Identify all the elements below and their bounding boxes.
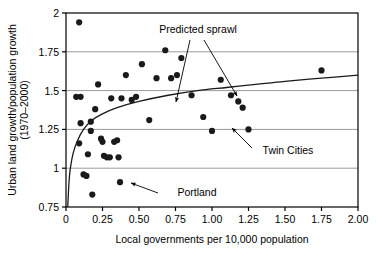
data-point xyxy=(78,94,84,100)
y-tick-label: 1 xyxy=(53,162,59,174)
data-point xyxy=(99,139,105,145)
scatter-plot: 00.250.500.751.001.251.501.752.00 0.7511… xyxy=(0,0,382,257)
data-point xyxy=(114,137,120,143)
data-point xyxy=(133,94,139,100)
y-tick-label: 2 xyxy=(53,7,59,19)
data-point xyxy=(123,72,129,78)
data-point xyxy=(146,117,152,123)
x-tick-label: 1.50 xyxy=(275,213,296,225)
x-tick-label: 2.00 xyxy=(348,213,369,225)
y-axis-title-line1: Urban land growth/population growth xyxy=(6,24,18,196)
annotation-label: Twin Cities xyxy=(263,144,314,156)
chart-figure: 00.250.500.751.001.251.501.752.00 0.7511… xyxy=(0,0,382,257)
data-point xyxy=(78,120,84,126)
data-point xyxy=(92,106,98,112)
data-point xyxy=(117,179,123,185)
x-axis-title: Local governments per 10,000 population xyxy=(115,233,308,245)
data-point xyxy=(209,128,215,134)
data-point xyxy=(83,173,89,179)
data-point xyxy=(245,126,251,132)
x-tick-label: 0.25 xyxy=(92,213,113,225)
data-point xyxy=(318,67,324,73)
y-axis-title-line2: (1970–2000) xyxy=(18,80,30,140)
annotation-label: Predicted sprawl xyxy=(159,23,237,35)
data-point xyxy=(162,47,168,53)
data-point xyxy=(76,19,82,25)
y-tick-label: 1.75 xyxy=(39,46,60,58)
y-tick-label: 1.5 xyxy=(44,85,59,97)
data-point xyxy=(228,92,234,98)
x-tick-label: 1.75 xyxy=(311,213,332,225)
data-point xyxy=(235,98,241,104)
data-point xyxy=(188,92,194,98)
data-point xyxy=(168,75,174,81)
data-point xyxy=(115,154,121,160)
x-tick-label: 0.50 xyxy=(129,213,150,225)
x-tick-label: 1.00 xyxy=(202,213,223,225)
y-tick-label: 0.75 xyxy=(39,201,60,213)
data-point xyxy=(174,72,180,78)
x-tick-label: 0.75 xyxy=(165,213,186,225)
data-point xyxy=(139,61,145,67)
data-point xyxy=(218,77,224,83)
y-tick-label: 1.25 xyxy=(39,123,60,135)
data-point xyxy=(107,154,113,160)
data-point xyxy=(200,114,206,120)
data-point xyxy=(178,55,184,61)
data-point xyxy=(108,95,114,101)
data-point xyxy=(85,151,91,157)
data-point xyxy=(118,95,124,101)
data-point xyxy=(240,105,246,111)
data-point xyxy=(153,75,159,81)
data-point xyxy=(76,140,82,146)
annotation-label: Portland xyxy=(177,186,216,198)
data-point xyxy=(88,128,94,134)
data-point xyxy=(89,191,95,197)
data-point xyxy=(95,81,101,87)
x-tick-label: 0 xyxy=(63,213,69,225)
data-point xyxy=(88,119,94,125)
x-tick-label: 1.25 xyxy=(238,213,259,225)
